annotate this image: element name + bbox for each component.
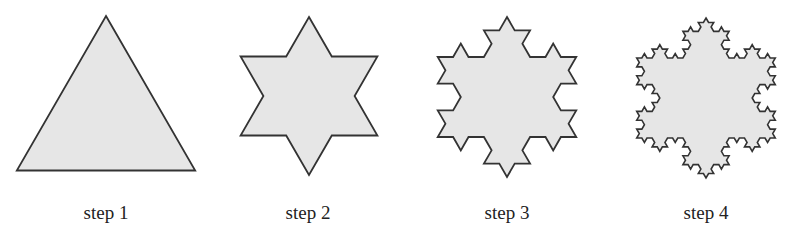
step-1-label: step 1 xyxy=(84,202,129,224)
step-3-label: step 3 xyxy=(485,202,530,224)
koch-shape-step-2 xyxy=(241,17,378,175)
koch-shape-step-1 xyxy=(17,16,195,171)
koch-shape-step-4 xyxy=(637,18,776,178)
step-2-label: step 2 xyxy=(286,202,331,224)
koch-shape-step-3 xyxy=(438,17,577,177)
step-4-label: step 4 xyxy=(684,202,729,224)
